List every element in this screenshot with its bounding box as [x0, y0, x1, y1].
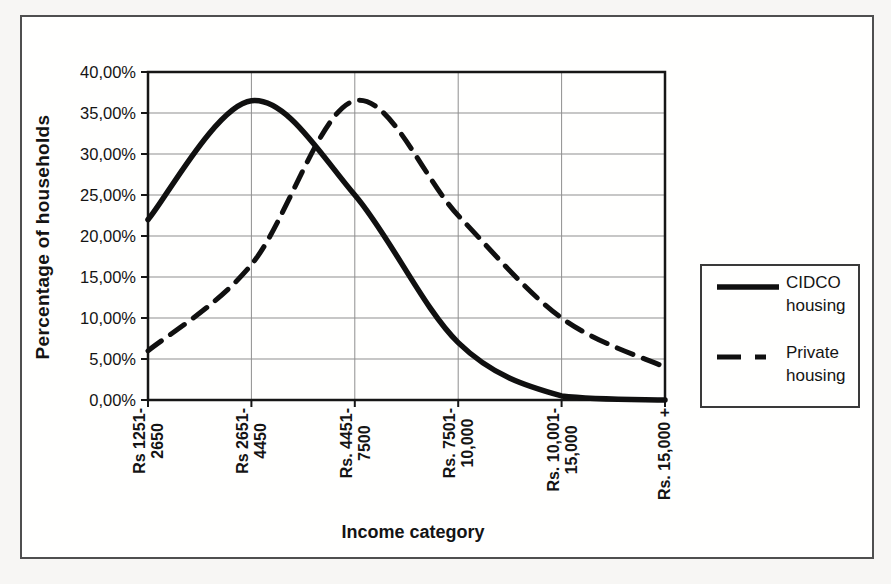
legend-dashed-line-icon [714, 351, 782, 363]
x-tick-label: Rs. 15,000 + [656, 408, 674, 500]
x-tick-label-line: 15,000 [562, 408, 580, 492]
x-tick-label: Rs. 7501- 10,000 [441, 408, 476, 478]
legend-label-line: CIDCO [786, 271, 856, 294]
legend-label-line: housing [786, 364, 856, 387]
y-tick-label: 20,00% [42, 226, 136, 246]
y-tick-label: 15,00% [42, 267, 136, 287]
x-tick-label-line: Rs 2651- [234, 408, 252, 474]
x-tick-label-line: 4450 [251, 408, 269, 474]
y-tick-label: 35,00% [42, 103, 136, 123]
legend-label-line: housing [786, 294, 856, 317]
x-axis-title: Income category [341, 522, 484, 543]
x-tick-label-line: 7500 [355, 408, 373, 478]
legend-solid-line-icon [714, 281, 782, 293]
y-tick-label: 40,00% [42, 62, 136, 82]
x-tick-label-line: Rs 1251- [131, 408, 149, 474]
legend-label-line: Private [786, 341, 856, 364]
x-tick-label: Rs. 4451- 7500 [337, 408, 372, 478]
x-tick-label: Rs. 10,001- 15,000 [544, 408, 579, 492]
x-tick-label-line: Rs. 15,000 + [656, 408, 674, 500]
y-tick-label: 25,00% [42, 185, 136, 205]
legend-item-private: Private housing [786, 341, 856, 387]
x-tick-label: Rs 1251- 2650 [131, 408, 166, 474]
y-tick-label: 5,00% [42, 349, 136, 369]
y-tick-label: 30,00% [42, 144, 136, 164]
x-tick-label-line: Rs. 10,001- [544, 408, 562, 492]
x-tick-label-line: Rs. 4451- [337, 408, 355, 478]
legend: CIDCO housing Private housing [700, 264, 860, 408]
legend-item-cidco: CIDCO housing [786, 271, 856, 317]
y-tick-label: 10,00% [42, 308, 136, 328]
x-tick-label-line: 2650 [148, 408, 166, 474]
x-tick-label-line: 10,000 [458, 408, 476, 478]
x-tick-label-line: Rs. 7501- [441, 408, 459, 478]
y-tick-label: 0,00% [42, 390, 136, 410]
x-tick-label: Rs 2651- 4450 [234, 408, 269, 474]
